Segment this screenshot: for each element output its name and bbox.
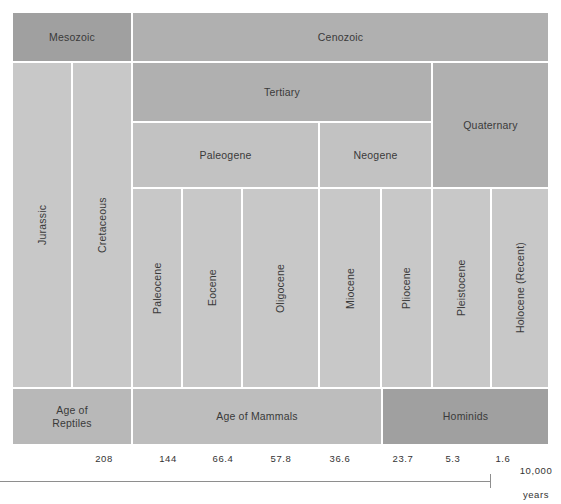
epoch-cell-cretaceous: Cretaceous (73, 63, 131, 387)
period-cell-tertiary: Tertiary (133, 63, 431, 121)
axis-line (0, 481, 491, 482)
axis-tick-label-5-3: 5.3 (427, 453, 479, 465)
axis-tick-label-66-4: 66.4 (197, 453, 249, 465)
epoch-label-pleistocene: Pleistocene (455, 260, 467, 316)
life-label-reptiles-line2: Reptiles (52, 417, 92, 429)
axis-terminal-label: 10,000 years (511, 453, 561, 504)
epoch-label-miocene: Miocene (344, 267, 356, 308)
epoch-label-jurassic: Jurassic (36, 205, 48, 245)
era-cell-cenozoic: Cenozoic (133, 13, 548, 61)
epoch-cell-holocene: Holocene (Recent) (492, 189, 548, 387)
axis-tick-label-57-8: 57.8 (255, 453, 307, 465)
subperiod-cell-paleogene: Paleogene (133, 123, 318, 187)
life-cell-age-of-reptiles: Age of Reptiles (13, 389, 131, 444)
epoch-cell-paleocene: Paleocene (133, 189, 181, 387)
epoch-cell-eocene: Eocene (183, 189, 241, 387)
epoch-label-pliocene: Pliocene (400, 267, 412, 309)
subperiod-label-paleogene: Paleogene (199, 149, 251, 161)
period-label-quaternary: Quaternary (463, 119, 518, 131)
epoch-cell-pleistocene: Pleistocene (433, 189, 490, 387)
epoch-cell-oligocene: Oligocene (243, 189, 318, 387)
era-label-cenozoic: Cenozoic (318, 31, 363, 43)
axis-end-tick (490, 474, 491, 488)
epoch-label-paleocene: Paleocene (151, 262, 163, 313)
period-cell-quaternary: Quaternary (433, 63, 548, 187)
life-label-reptiles-line1: Age of (52, 404, 92, 416)
life-cell-hominids: Hominids (383, 389, 548, 444)
axis-tick-label-208: 208 (78, 453, 130, 465)
epoch-label-holocene: Holocene (Recent) (514, 243, 526, 334)
axis-tick-label-36-6: 36.6 (314, 453, 366, 465)
life-label-age-of-mammals: Age of Mammals (216, 410, 298, 422)
epoch-cell-miocene: Miocene (320, 189, 380, 387)
period-label-tertiary: Tertiary (264, 86, 300, 98)
subperiod-label-neogene: Neogene (353, 149, 397, 161)
subperiod-cell-neogene: Neogene (320, 123, 431, 187)
axis-tick-label-144: 144 (142, 453, 194, 465)
life-label-age-of-reptiles: Age of Reptiles (52, 404, 92, 429)
life-label-hominids: Hominids (443, 410, 488, 422)
era-cell-mesozoic: Mesozoic (13, 13, 131, 61)
life-cell-age-of-mammals: Age of Mammals (133, 389, 381, 444)
axis-tick-label-23-7: 23.7 (377, 453, 429, 465)
epoch-label-cretaceous: Cretaceous (96, 197, 108, 253)
epoch-label-eocene: Eocene (206, 270, 218, 307)
epoch-cell-jurassic: Jurassic (13, 63, 71, 387)
epoch-label-oligocene: Oligocene (274, 263, 286, 312)
era-label-mesozoic: Mesozoic (49, 31, 95, 43)
epoch-cell-pliocene: Pliocene (382, 189, 431, 387)
axis-terminal-line1: 10,000 (511, 465, 561, 477)
axis-terminal-line2: years (511, 489, 561, 501)
